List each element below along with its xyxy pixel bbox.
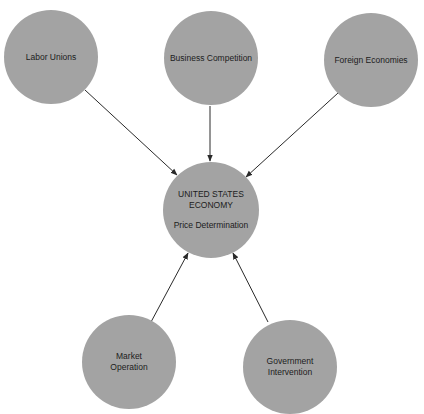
node-government-intervention: Government Intervention bbox=[243, 320, 337, 414]
node-label-line-2: Operation bbox=[110, 362, 147, 373]
node-business-competition: Business Competition bbox=[164, 11, 258, 105]
arrow-government-intervention-to-us-economy bbox=[233, 253, 268, 322]
node-foreign-economies: Foreign Economies bbox=[324, 13, 418, 107]
center-subtitle: Price Determination bbox=[174, 220, 249, 231]
node-us-economy: UNITED STATES ECONOMY Price Determinatio… bbox=[163, 162, 259, 258]
arrow-foreign-economies-to-us-economy bbox=[246, 93, 338, 177]
node-labor-unions: Labor Unions bbox=[4, 10, 98, 104]
node-label: Business Competition bbox=[170, 53, 252, 64]
arrow-market-operation-to-us-economy bbox=[151, 253, 188, 322]
center-title-line-2: ECONOMY bbox=[189, 200, 233, 211]
node-label: Labor Unions bbox=[26, 52, 77, 63]
node-market-operation: Market Operation bbox=[82, 315, 176, 409]
node-label-line-1: Government bbox=[267, 356, 314, 367]
node-label-line-2: Intervention bbox=[268, 367, 312, 378]
node-label: Foreign Economies bbox=[334, 55, 407, 66]
node-label-line-1: Market bbox=[116, 351, 142, 362]
center-title-line-1: UNITED STATES bbox=[178, 189, 244, 200]
arrow-labor-unions-to-us-economy bbox=[85, 90, 177, 175]
